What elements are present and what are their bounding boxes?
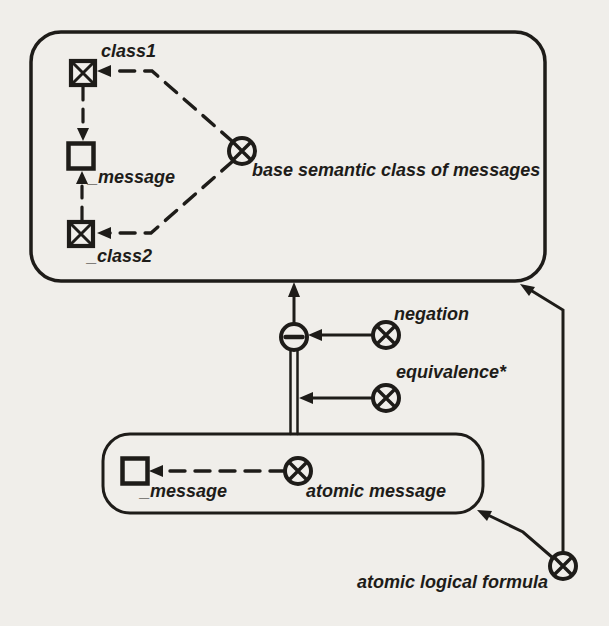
atomic-logical-formula-icon xyxy=(550,553,576,579)
class1-to-message-arrow xyxy=(77,87,89,141)
atomic-logical-formula-label: atomic logical formula xyxy=(357,572,548,593)
equivalence-label: equivalence* xyxy=(396,362,506,383)
message-open-square-icon xyxy=(69,144,94,169)
lower-message-label: _message xyxy=(140,481,227,502)
class2-label: _class2 xyxy=(87,246,152,267)
base-to-class1-link xyxy=(97,65,233,142)
junction-double-line xyxy=(291,350,298,434)
class1-crossed-square-icon xyxy=(71,61,95,85)
formula-to-base-box-arrow xyxy=(520,284,563,553)
diagram-canvas: class1 _message _class2 base semantic cl… xyxy=(0,0,609,626)
equivalence-icon xyxy=(373,385,399,411)
class2-crossed-square-icon xyxy=(69,222,93,246)
equivalence-to-line-arrow xyxy=(299,392,373,404)
negation-icon xyxy=(373,322,399,348)
atomic-message-label: atomic message xyxy=(306,481,446,502)
junction-to-box-arrow xyxy=(288,282,300,324)
class2-to-message-arrow xyxy=(76,171,88,220)
message-label: _message xyxy=(88,167,175,188)
negation-to-junction-arrow xyxy=(308,329,373,341)
formula-to-atomic-box-arrow xyxy=(477,510,553,558)
base-semantic-class-label: base semantic class of messages xyxy=(252,160,540,181)
negation-label: negation xyxy=(394,304,469,325)
junction-circle-minus-icon xyxy=(281,324,307,350)
lower-message-open-square-icon xyxy=(123,459,148,484)
atomic-to-message-link xyxy=(149,465,285,477)
diagram-artwork xyxy=(0,0,609,626)
class1-label: class1 xyxy=(101,41,156,62)
